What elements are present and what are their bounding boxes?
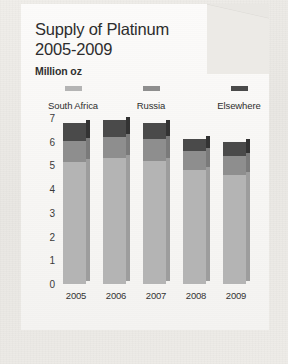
y-axis-tick-label: 4: [33, 184, 55, 195]
chart-legend: South AfricaRussiaElsewhere: [35, 86, 261, 118]
bar-stack: [223, 142, 246, 284]
x-axis-tick-label: 2006: [99, 290, 133, 301]
bar-side-segment: [206, 167, 210, 281]
legend-item-russia[interactable]: Russia: [121, 86, 181, 113]
legend-item-south-africa[interactable]: South Africa: [35, 86, 111, 113]
legend-swatch-icon: [143, 86, 160, 91]
y-axis-tick-label: 6: [33, 136, 55, 147]
bar-segment-south-africa: [63, 162, 86, 284]
chart-plot-area: 01234567 20052006200720082009: [21, 118, 269, 330]
y-axis-tick-label: 5: [33, 160, 55, 171]
bar-side-segment: [246, 172, 250, 281]
y-axis-tick-label: 2: [33, 231, 55, 242]
page-title-line-1: Supply of Platinum: [35, 20, 169, 39]
bar-stack: [183, 139, 206, 284]
chart-content: Supply of Platinum 2005-2009 Million oz …: [21, 4, 269, 330]
x-axis-tick-label: 2009: [219, 290, 253, 301]
x-axis-tick-label: 2007: [139, 290, 173, 301]
legend-item-label: Elsewhere: [217, 100, 260, 111]
y-axis-tick-label: 7: [33, 113, 55, 124]
y-axis-tick-label: 3: [33, 207, 55, 218]
legend-swatch-icon: [65, 86, 82, 91]
bar-segment-russia: [223, 156, 246, 175]
x-axis-tick-label: 2008: [179, 290, 213, 301]
x-axis-tick-label: 2005: [59, 290, 93, 301]
bar-segment-south-africa: [223, 175, 246, 284]
legend-item-elsewhere[interactable]: Elsewhere: [203, 86, 275, 113]
y-axis: 01234567: [27, 118, 55, 284]
bar-side-face: [206, 136, 210, 281]
legend-item-label: Russia: [137, 100, 165, 111]
bar-segment-south-africa: [183, 170, 206, 284]
legend-item-label: South Africa: [48, 100, 98, 111]
y-axis-tick-label: 1: [33, 255, 55, 266]
page-title-line-2: 2005-2009: [35, 40, 112, 59]
bar-side-face: [246, 139, 250, 281]
bar-segment-south-africa: [143, 161, 166, 284]
y-axis-tick-label: 0: [33, 279, 55, 290]
bar-side-segment: [166, 158, 170, 281]
bar-side-segment: [126, 155, 130, 281]
x-axis: 20052006200720082009: [59, 118, 263, 158]
bar-segment-south-africa: [103, 158, 126, 284]
legend-swatch-icon: [231, 86, 248, 91]
chart-subtitle: Million oz: [35, 65, 82, 77]
bar-side-segment: [86, 159, 90, 281]
